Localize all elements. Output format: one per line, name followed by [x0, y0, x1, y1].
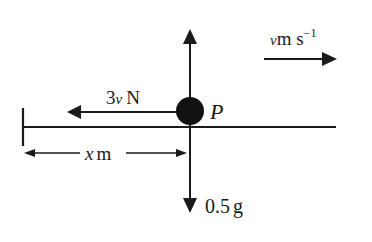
displacement-label: xm: [84, 143, 111, 164]
displacement-var: x: [84, 143, 94, 164]
particle-label: P: [209, 99, 223, 124]
weight-label: 0.5g: [205, 195, 243, 218]
velocity-exponent: −1: [304, 26, 317, 40]
weight-unit: g: [233, 195, 243, 218]
weight-arrowhead-icon: [183, 198, 197, 213]
resistance-unit: N: [126, 87, 140, 108]
particle-p: [176, 97, 204, 125]
displacement-right-arrowhead-icon: [176, 149, 187, 157]
resistance-coef: 3: [106, 87, 116, 108]
normal-reaction-arrowhead-icon: [183, 29, 197, 44]
displacement-left-arrowhead-icon: [24, 149, 35, 157]
velocity-unit: m s: [277, 28, 304, 49]
force-diagram: P 3vN vm s−1 xm 0.5g: [0, 0, 372, 242]
velocity-label: vm s−1: [270, 26, 316, 49]
resistance-arrowhead-icon: [67, 105, 81, 119]
displacement-unit: m: [96, 143, 111, 164]
resistance-var: v: [116, 91, 123, 107]
velocity-arrowhead-icon: [322, 52, 337, 66]
resistance-label: 3vN: [106, 87, 140, 108]
weight-value: 0.5: [205, 195, 230, 217]
